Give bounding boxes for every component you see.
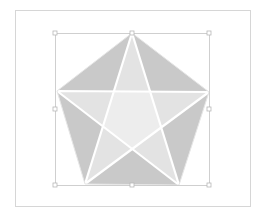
pentagram-diagram: [0, 0, 260, 217]
diagram-canvas: [0, 0, 260, 217]
resize-handle-middle-right[interactable]: [207, 107, 211, 111]
resize-handle-top-right[interactable]: [207, 31, 211, 35]
resize-handle-top-left[interactable]: [53, 31, 57, 35]
resize-handle-top-center[interactable]: [130, 31, 134, 35]
resize-handle-bottom-right[interactable]: [207, 183, 211, 187]
resize-handle-bottom-left[interactable]: [53, 183, 57, 187]
resize-handle-bottom-center[interactable]: [130, 183, 134, 187]
pentagon-shape[interactable]: [57, 33, 209, 185]
resize-handle-middle-left[interactable]: [53, 107, 57, 111]
